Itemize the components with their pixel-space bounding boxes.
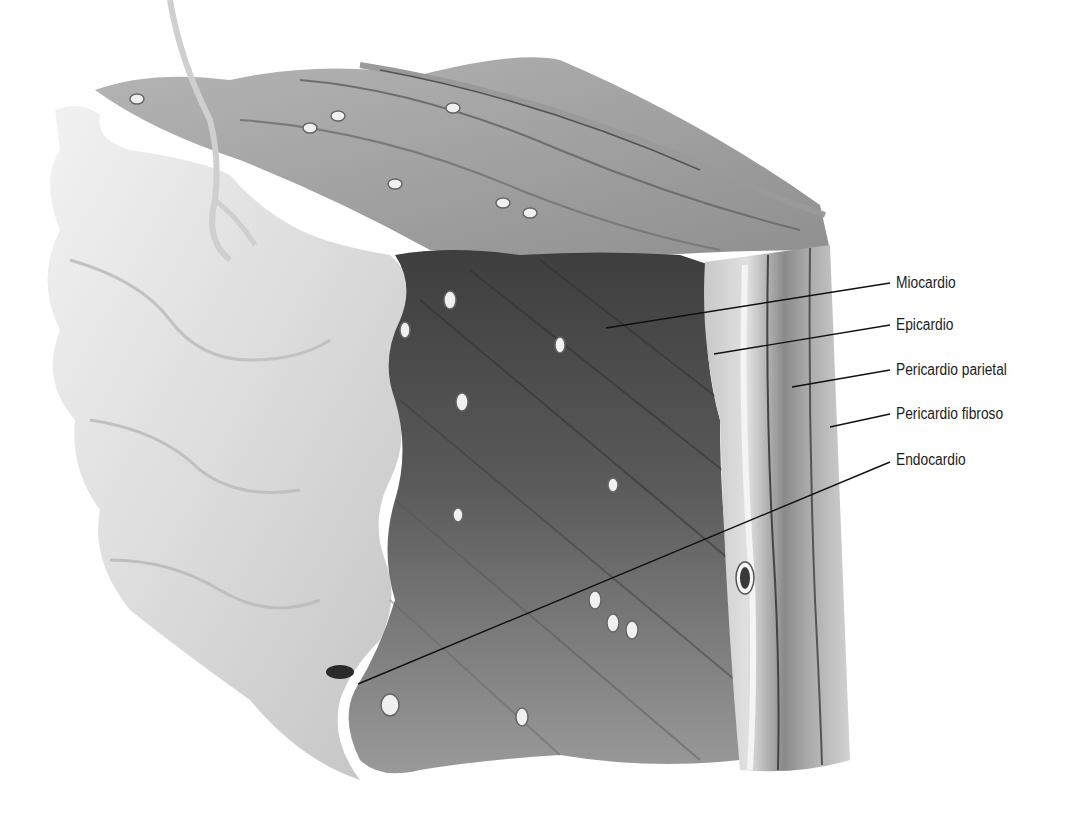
label-endocardio: Endocardio — [896, 450, 966, 470]
trabecula-cavity — [326, 665, 354, 679]
heart-wall-diagram: Miocardio Epicardio Pericardio parietal … — [0, 0, 1071, 824]
label-miocardio: Miocardio — [896, 273, 956, 293]
leader-line-pericardio-fibroso — [830, 414, 890, 427]
label-pericardio-parietal: Pericardio parietal — [896, 360, 1007, 380]
label-pericardio-fibroso: Pericardio fibroso — [896, 404, 1003, 424]
label-epicardio: Epicardio — [896, 315, 953, 335]
